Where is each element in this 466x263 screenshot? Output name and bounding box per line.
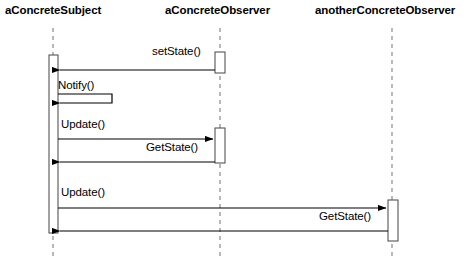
activation-bar-subject (49, 55, 58, 233)
message-arrow-notify (58, 94, 112, 103)
activation-bar-observer1-first (215, 52, 225, 73)
message-label-update-2: Update() (61, 186, 105, 198)
message-label-getstate-2: GetState() (319, 210, 371, 222)
activation-bar-observer1-second (215, 128, 225, 163)
message-label-update-1: Update() (61, 118, 105, 130)
sequence-diagram-canvas: aConcreteSubject aConcreteObserver anoth… (0, 0, 466, 263)
message-label-getstate-1: GetState() (146, 141, 198, 153)
activation-bar-observer2 (388, 200, 398, 241)
message-label-notify: Notify() (58, 79, 94, 91)
diagram-vector-layer (0, 0, 466, 263)
message-label-setstate: setState() (152, 45, 201, 57)
